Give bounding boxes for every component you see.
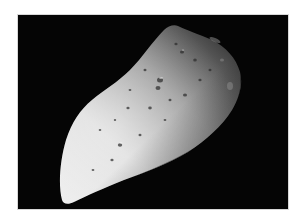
asteroid-photo	[0, 0, 304, 222]
asteroid-body	[40, 10, 260, 220]
